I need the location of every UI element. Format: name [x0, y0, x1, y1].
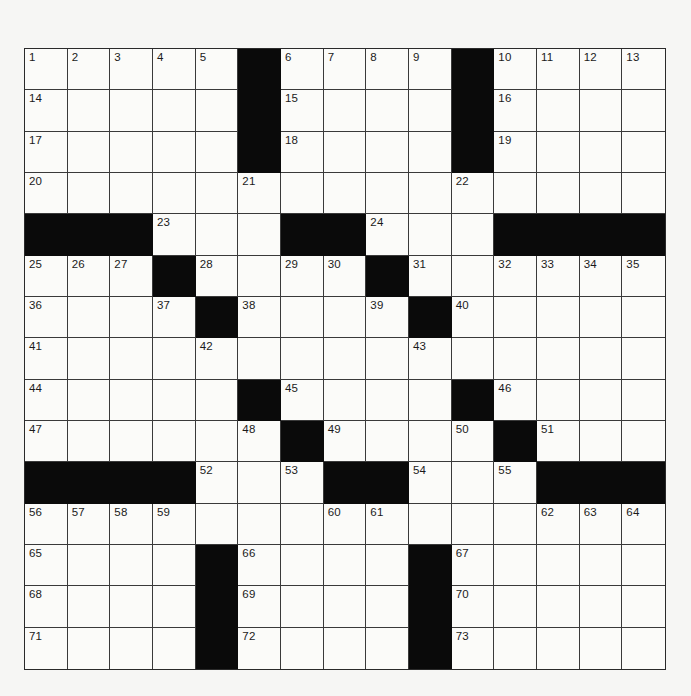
crossword-cell[interactable]	[324, 338, 367, 379]
crossword-cell[interactable]	[196, 90, 239, 131]
crossword-cell[interactable]	[622, 380, 665, 421]
crossword-cell[interactable]	[153, 421, 196, 462]
crossword-cell[interactable]: 51	[537, 421, 580, 462]
crossword-cell[interactable]: 2	[68, 49, 111, 90]
crossword-cell[interactable]: 29	[281, 256, 324, 297]
crossword-cell[interactable]	[580, 297, 623, 338]
crossword-cell[interactable]	[153, 338, 196, 379]
crossword-cell[interactable]	[238, 462, 281, 503]
crossword-cell[interactable]: 17	[25, 132, 68, 173]
crossword-cell[interactable]	[68, 421, 111, 462]
crossword-cell[interactable]	[580, 380, 623, 421]
crossword-cell[interactable]	[494, 504, 537, 545]
crossword-cell[interactable]	[409, 380, 452, 421]
crossword-cell[interactable]: 48	[238, 421, 281, 462]
crossword-cell[interactable]	[68, 628, 111, 669]
crossword-cell[interactable]	[281, 297, 324, 338]
crossword-cell[interactable]	[537, 586, 580, 627]
crossword-cell[interactable]: 5	[196, 49, 239, 90]
crossword-cell[interactable]	[238, 504, 281, 545]
crossword-cell[interactable]	[110, 297, 153, 338]
crossword-cell[interactable]	[452, 256, 495, 297]
crossword-cell[interactable]: 63	[580, 504, 623, 545]
crossword-cell[interactable]	[452, 504, 495, 545]
crossword-cell[interactable]	[580, 338, 623, 379]
crossword-cell[interactable]	[452, 338, 495, 379]
crossword-cell[interactable]: 69	[238, 586, 281, 627]
crossword-cell[interactable]	[153, 132, 196, 173]
crossword-cell[interactable]	[196, 173, 239, 214]
crossword-cell[interactable]: 52	[196, 462, 239, 503]
crossword-cell[interactable]: 23	[153, 214, 196, 255]
crossword-cell[interactable]	[366, 421, 409, 462]
crossword-cell[interactable]: 30	[324, 256, 367, 297]
crossword-cell[interactable]	[281, 545, 324, 586]
crossword-cell[interactable]	[196, 132, 239, 173]
crossword-cell[interactable]	[153, 545, 196, 586]
crossword-cell[interactable]: 19	[494, 132, 537, 173]
crossword-cell[interactable]	[68, 380, 111, 421]
crossword-cell[interactable]	[281, 338, 324, 379]
crossword-cell[interactable]	[110, 380, 153, 421]
crossword-cell[interactable]: 66	[238, 545, 281, 586]
crossword-cell[interactable]: 64	[622, 504, 665, 545]
crossword-cell[interactable]: 6	[281, 49, 324, 90]
crossword-cell[interactable]: 55	[494, 462, 537, 503]
crossword-cell[interactable]: 15	[281, 90, 324, 131]
crossword-cell[interactable]	[153, 628, 196, 669]
crossword-cell[interactable]: 61	[366, 504, 409, 545]
crossword-cell[interactable]	[68, 338, 111, 379]
crossword-cell[interactable]	[622, 338, 665, 379]
crossword-cell[interactable]: 40	[452, 297, 495, 338]
crossword-cell[interactable]	[110, 628, 153, 669]
crossword-cell[interactable]	[580, 132, 623, 173]
crossword-cell[interactable]: 10	[494, 49, 537, 90]
crossword-cell[interactable]: 22	[452, 173, 495, 214]
crossword-cell[interactable]	[281, 628, 324, 669]
crossword-cell[interactable]	[68, 545, 111, 586]
crossword-cell[interactable]	[238, 338, 281, 379]
crossword-cell[interactable]: 3	[110, 49, 153, 90]
crossword-cell[interactable]	[153, 90, 196, 131]
crossword-cell[interactable]: 31	[409, 256, 452, 297]
crossword-cell[interactable]: 27	[110, 256, 153, 297]
crossword-cell[interactable]	[281, 173, 324, 214]
crossword-cell[interactable]	[110, 586, 153, 627]
crossword-cell[interactable]: 43	[409, 338, 452, 379]
crossword-cell[interactable]	[580, 173, 623, 214]
crossword-cell[interactable]	[409, 132, 452, 173]
crossword-cell[interactable]	[409, 173, 452, 214]
crossword-cell[interactable]	[366, 380, 409, 421]
crossword-cell[interactable]	[366, 90, 409, 131]
crossword-cell[interactable]	[324, 545, 367, 586]
crossword-cell[interactable]: 72	[238, 628, 281, 669]
crossword-cell[interactable]	[537, 90, 580, 131]
crossword-cell[interactable]: 11	[537, 49, 580, 90]
crossword-cell[interactable]: 36	[25, 297, 68, 338]
crossword-cell[interactable]: 39	[366, 297, 409, 338]
crossword-cell[interactable]	[494, 545, 537, 586]
crossword-cell[interactable]: 1	[25, 49, 68, 90]
crossword-cell[interactable]	[494, 586, 537, 627]
crossword-cell[interactable]	[580, 628, 623, 669]
crossword-cell[interactable]	[68, 297, 111, 338]
crossword-cell[interactable]	[537, 297, 580, 338]
crossword-cell[interactable]	[153, 380, 196, 421]
crossword-cell[interactable]	[68, 586, 111, 627]
crossword-cell[interactable]: 26	[68, 256, 111, 297]
crossword-cell[interactable]	[366, 586, 409, 627]
crossword-cell[interactable]	[622, 545, 665, 586]
crossword-cell[interactable]	[622, 90, 665, 131]
crossword-cell[interactable]: 57	[68, 504, 111, 545]
crossword-cell[interactable]: 7	[324, 49, 367, 90]
crossword-cell[interactable]	[622, 586, 665, 627]
crossword-cell[interactable]	[409, 90, 452, 131]
crossword-cell[interactable]	[622, 421, 665, 462]
crossword-cell[interactable]: 37	[153, 297, 196, 338]
crossword-cell[interactable]: 54	[409, 462, 452, 503]
crossword-cell[interactable]: 47	[25, 421, 68, 462]
crossword-cell[interactable]	[324, 297, 367, 338]
crossword-cell[interactable]: 50	[452, 421, 495, 462]
crossword-cell[interactable]	[110, 338, 153, 379]
crossword-cell[interactable]	[110, 545, 153, 586]
